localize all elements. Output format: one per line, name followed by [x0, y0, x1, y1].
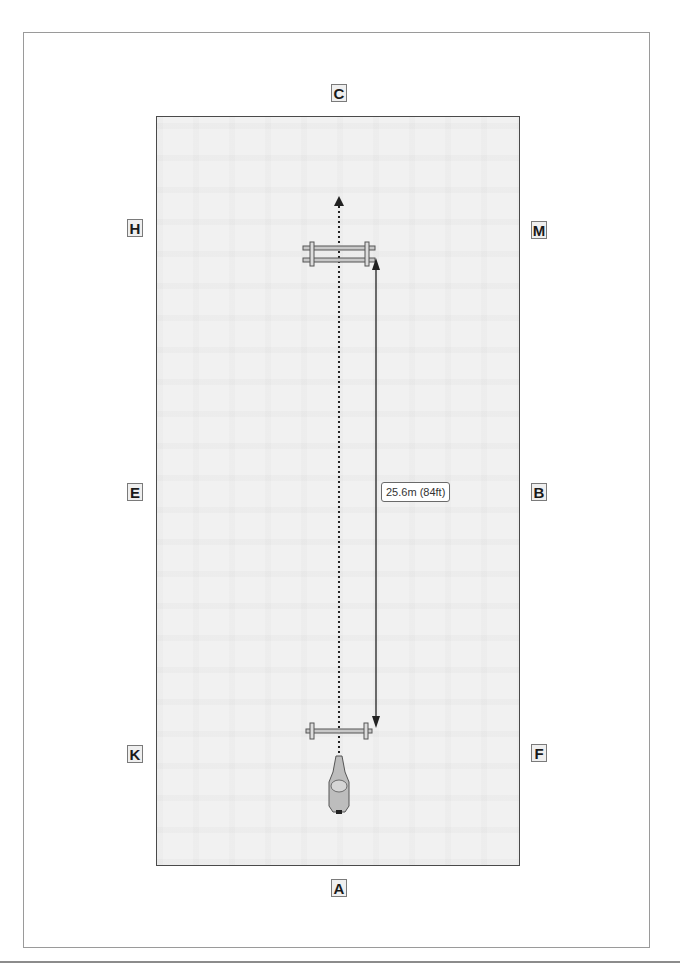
diagram-overlay — [0, 0, 680, 972]
horse-rider-icon — [329, 756, 349, 814]
distance-measure — [372, 258, 380, 728]
letter-marker-E: E — [127, 483, 143, 501]
letter-marker-K: K — [127, 745, 143, 763]
arrow-down-icon — [372, 716, 380, 728]
oxer-fence-icon — [303, 242, 375, 266]
letter-marker-A: A — [331, 879, 347, 897]
path-arrow-icon — [334, 196, 344, 206]
letter-marker-M: M — [531, 221, 547, 239]
letter-marker-C: C — [331, 84, 347, 102]
distance-label: 25.6m (84ft) — [381, 482, 450, 502]
letter-marker-F: F — [531, 744, 547, 762]
travel-path — [334, 196, 344, 778]
letter-marker-B: B — [531, 483, 547, 501]
letter-marker-H: H — [127, 219, 143, 237]
